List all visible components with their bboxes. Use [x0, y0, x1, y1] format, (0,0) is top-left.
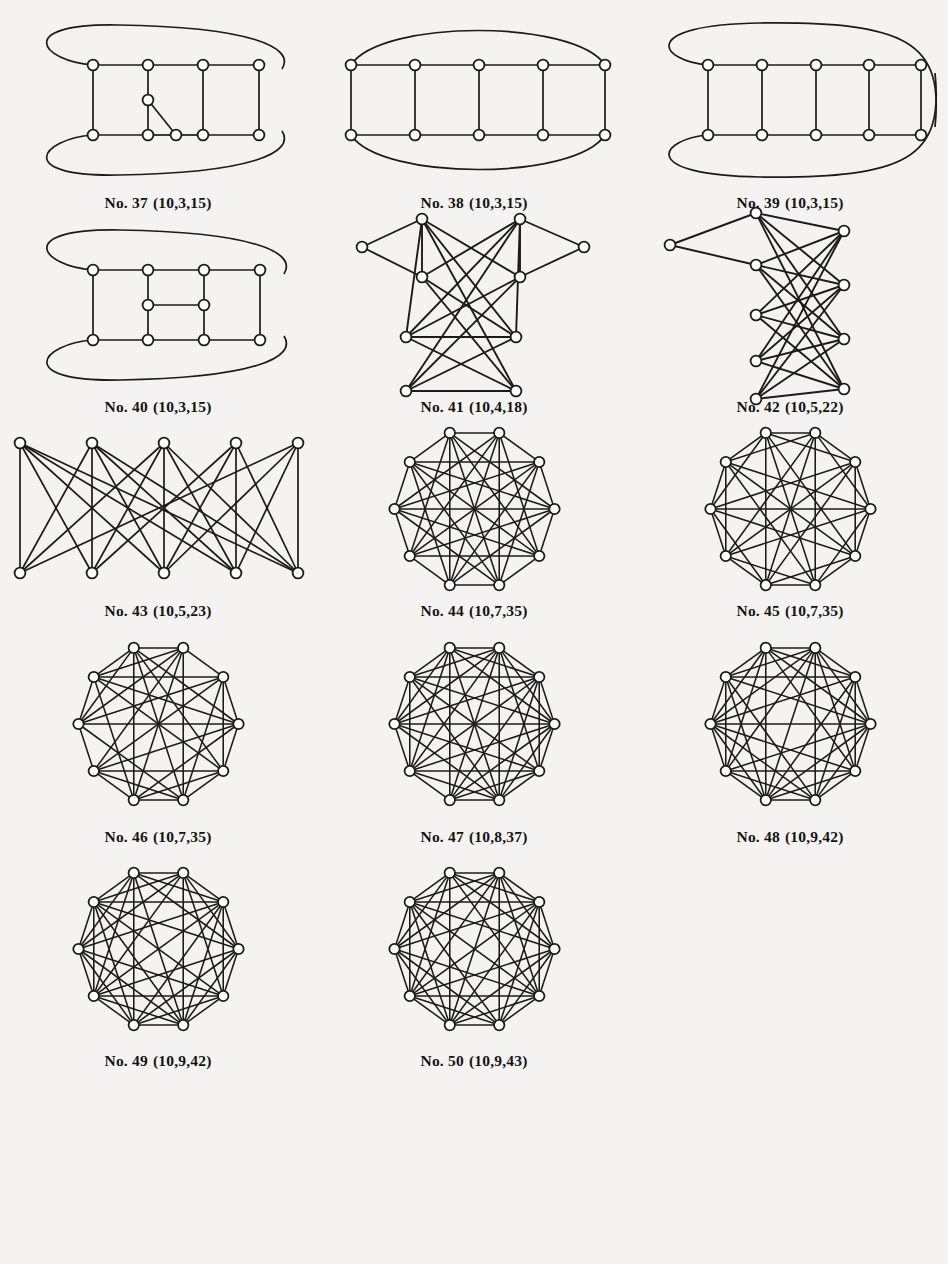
graph-vertex	[720, 672, 730, 682]
graph-vertex	[838, 225, 849, 236]
graph-edge	[394, 677, 539, 724]
graph-vertex	[88, 129, 99, 140]
graph-vertex	[88, 672, 98, 682]
graph-edge	[725, 771, 765, 800]
figure-cell-50: No. 50(10,9,43)	[316, 846, 632, 1096]
graph-vertex	[198, 59, 209, 70]
figure-caption: No. 44(10,7,35)	[420, 602, 527, 620]
graph-edge	[855, 509, 870, 556]
graph-vertex	[810, 643, 820, 653]
graph-vertex	[404, 766, 414, 776]
graph-vertex	[534, 551, 544, 561]
graph-edge-curved	[669, 73, 936, 177]
graph-figure-fig-42[interactable]	[658, 212, 923, 398]
graph-edge	[78, 949, 93, 996]
graph-figure-fig-50[interactable]	[372, 846, 577, 1052]
graph-vertex	[73, 719, 83, 729]
graph-vertex	[760, 643, 770, 653]
graph-vertex	[254, 59, 265, 70]
graph-edge	[394, 724, 409, 771]
graph-figure-fig-48[interactable]	[688, 620, 893, 828]
graph-vertex	[511, 332, 522, 343]
graph-edge	[223, 677, 238, 724]
graph-vertex	[600, 129, 611, 140]
graph-figure-fig-46[interactable]	[56, 620, 261, 828]
graph-edge	[710, 462, 855, 509]
graph-edge	[499, 873, 539, 902]
figure-caption: No. 49(10,9,42)	[104, 1052, 211, 1070]
graph-edge	[394, 724, 539, 771]
graph-edge	[725, 509, 870, 556]
graph-edge	[78, 949, 223, 996]
graph-vertex	[444, 428, 454, 438]
graph-edge-curved	[47, 24, 285, 68]
graph-vertex	[494, 643, 504, 653]
graph-edge	[539, 677, 554, 724]
graph-edge	[409, 648, 449, 677]
graph-vertex	[401, 386, 412, 397]
graph-edge	[148, 100, 176, 135]
graph-edge	[362, 219, 422, 247]
figure-caption-number: No. 37	[104, 194, 147, 211]
graph-vertex	[218, 897, 228, 907]
graph-edge	[725, 556, 814, 585]
graph-figure-fig-37[interactable]	[0, 6, 318, 194]
graph-edge	[725, 433, 765, 462]
graph-figure-fig-43[interactable]	[6, 416, 311, 602]
graph-vertex	[178, 868, 188, 878]
graph-vertex	[494, 1020, 504, 1030]
graph-edge	[670, 213, 756, 245]
graph-edge	[223, 902, 238, 949]
graph-figure-fig-41[interactable]	[344, 212, 604, 398]
graph-edge	[520, 247, 584, 277]
graph-vertex	[255, 264, 266, 275]
graph-vertex	[255, 334, 266, 345]
graph-vertex	[515, 272, 526, 283]
graph-figure-fig-47[interactable]	[372, 620, 577, 828]
graph-figure-fig-49[interactable]	[56, 846, 261, 1052]
graph-edge	[394, 509, 409, 556]
figure-row: No. 46(10,7,35)No. 47(10,8,37)No. 48(10,…	[0, 620, 948, 846]
graph-edge	[725, 556, 765, 585]
graph-edge	[223, 724, 238, 771]
graph-vertex	[230, 567, 241, 578]
graph-vertex	[705, 504, 715, 514]
graph-vertex	[171, 129, 182, 140]
graph-figure-fig-45[interactable]	[688, 416, 893, 602]
graph-vertex	[600, 59, 611, 70]
graph-edge	[725, 462, 870, 509]
graph-figure-fig-39[interactable]	[630, 6, 948, 194]
graph-edge	[499, 996, 539, 1025]
graph-edge	[710, 724, 725, 771]
graph-figure-fig-38[interactable]	[309, 6, 639, 194]
graph-figure-fig-44[interactable]	[372, 416, 577, 602]
graph-edge	[855, 724, 870, 771]
figure-caption-number: No. 45	[736, 602, 779, 619]
figure-caption-number: No. 50	[420, 1052, 463, 1069]
figure-caption-params: (10,5,23)	[153, 602, 212, 619]
graph-drawing	[372, 409, 577, 609]
figure-cell-47: No. 47(10,8,37)	[316, 620, 632, 846]
graph-edge	[409, 996, 449, 1025]
graph-edge	[183, 648, 223, 677]
graph-vertex	[720, 551, 730, 561]
graph-vertex	[664, 239, 675, 250]
graph-edge	[710, 724, 855, 771]
graph-vertex	[143, 264, 154, 275]
graph-edge	[756, 213, 844, 231]
graph-vertex	[838, 333, 849, 344]
graph-vertex	[178, 795, 188, 805]
figure-caption-params: (10,7,35)	[785, 602, 844, 619]
graph-vertex	[254, 129, 265, 140]
graph-figure-fig-40[interactable]	[0, 212, 318, 398]
graph-edge	[710, 509, 855, 556]
figure-caption-params: (10,8,37)	[469, 828, 528, 845]
graph-edge	[855, 462, 870, 509]
figure-cell-42: No. 42(10,5,22)	[632, 212, 948, 416]
graph-edge-curved	[669, 22, 936, 126]
graph-vertex	[810, 580, 820, 590]
graph-vertex	[511, 386, 522, 397]
graph-edge	[394, 677, 409, 724]
figure-caption-number: No. 44	[420, 602, 463, 619]
figure-caption-number: No. 48	[736, 828, 779, 845]
